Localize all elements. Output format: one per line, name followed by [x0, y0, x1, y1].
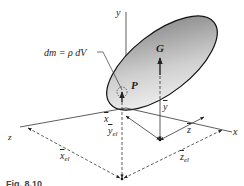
x-bar-el-subscript: el [64, 155, 69, 163]
x-bar-dimension [126, 116, 160, 140]
x-bar-label: x [104, 114, 108, 124]
p-projection-point [121, 178, 124, 181]
figure-caption: Fig. 8.10 [6, 180, 42, 186]
center-of-mass-label: G [156, 43, 164, 54]
z-bar-el-dimension [124, 130, 222, 178]
mass-element-label: P [131, 80, 138, 91]
z-bar-label: z [187, 125, 191, 135]
rigid-body [92, 0, 233, 127]
x-axis [126, 108, 232, 132]
x-bar-el-label: xel [60, 151, 70, 163]
z-axis-label: z [8, 133, 12, 142]
rigid-body-diagram: y x z dm = ρ dV G P y x z yel xel zel Fi… [0, 0, 244, 186]
y-bar-label: y [163, 102, 167, 112]
equation-label: dm = ρ dV [44, 48, 86, 58]
z-bar-el-label: zel [180, 152, 189, 164]
y-bar-el-subscript: el [112, 130, 117, 138]
y-bar-el-label: yel [108, 126, 118, 138]
z-bar-el-subscript: el [184, 156, 189, 164]
diagram-canvas [0, 0, 244, 186]
y-axis-label: y [116, 8, 120, 18]
x-bar-el-dimension [28, 128, 120, 178]
g-projection-point [159, 139, 162, 142]
x-axis-label: x [233, 127, 237, 137]
